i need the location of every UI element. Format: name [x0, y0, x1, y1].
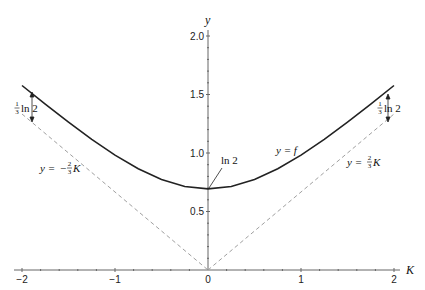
label-y-eq: y = — [39, 162, 55, 174]
x-tick-label: −2 — [16, 274, 28, 285]
chart: −2 −1 0 1 2 0.5 1.0 1.5 2.0 K y ln 2 1 3… — [0, 0, 425, 290]
label-y-eq: y = — [346, 156, 362, 168]
x-axis-label: K — [405, 263, 415, 277]
label-minus: − — [60, 162, 66, 174]
frac-den: 3 — [368, 162, 372, 170]
frac-den: 3 — [15, 108, 19, 116]
x-tick-label: −1 — [109, 274, 121, 285]
asymptote-left-label: y = − 2 3 K — [39, 160, 81, 176]
y-tick-label: 1.5 — [190, 89, 204, 100]
third-ln2-label-right: ln 2 — [384, 102, 401, 114]
x-tick-label: 1 — [298, 274, 304, 285]
frac-den: 3 — [68, 168, 72, 176]
frac-den: 3 — [378, 108, 382, 116]
frac-num: 1 — [378, 100, 382, 108]
frac-num: 2 — [368, 154, 372, 162]
y-axis-label: y — [204, 13, 211, 27]
ln2-pointer — [209, 168, 222, 188]
y-tick-label: 0.5 — [190, 206, 204, 217]
curve-label-f: y = f — [275, 144, 299, 156]
x-tick-label: 2 — [391, 274, 397, 285]
x-tick-label: 0 — [205, 274, 211, 285]
asymptote-left — [22, 114, 208, 270]
y-tick-label: 2.0 — [190, 31, 204, 42]
label-k: K — [372, 156, 381, 168]
frac-num: 1 — [15, 100, 19, 108]
label-k: K — [72, 162, 81, 174]
asymptote-right — [208, 114, 394, 270]
third-ln2-label-left: ln 2 — [21, 102, 38, 114]
asymptote-right-label: y = 2 3 K — [346, 154, 381, 170]
ln2-label: ln 2 — [221, 154, 238, 166]
frac-num: 2 — [68, 160, 72, 168]
y-tick-label: 1.0 — [190, 148, 204, 159]
